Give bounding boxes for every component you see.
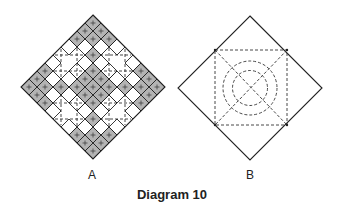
diagram-a	[21, 15, 165, 159]
dashed-circle	[223, 61, 277, 115]
figure-caption: Diagram 10	[137, 187, 207, 202]
outer-square-b	[178, 16, 322, 160]
grid-cells	[21, 15, 165, 159]
corner-point	[214, 124, 216, 126]
diagram-b	[178, 16, 322, 160]
dashed-construction	[215, 50, 287, 125]
diagram-b-label: B	[246, 168, 254, 182]
diagram-figure: A B Diagram 10	[0, 0, 337, 203]
corner-point	[286, 49, 288, 51]
diagram-a-label: A	[88, 168, 96, 182]
corner-point	[214, 49, 216, 51]
dashed-circle	[233, 71, 268, 106]
corner-point	[286, 124, 288, 126]
